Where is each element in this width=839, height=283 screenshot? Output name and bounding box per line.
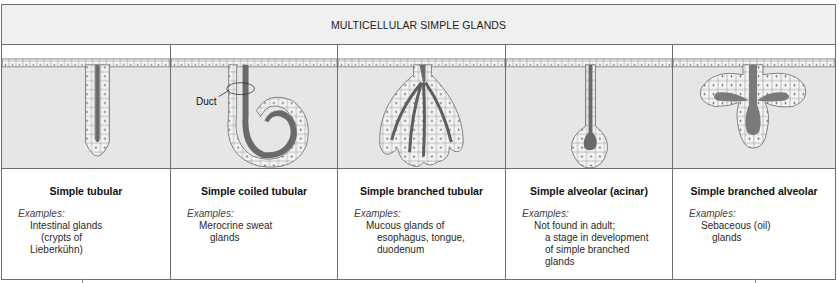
gland-columns: Simple tubular Examples: Intestinal glan… [2, 45, 835, 280]
edge-tick [82, 279, 83, 283]
gland-examples: Examples: Mucous glands of esophagus, to… [354, 208, 465, 256]
duct-label: Duct [196, 96, 217, 107]
example-line: glands [689, 232, 770, 244]
examples-label: Examples: [354, 208, 465, 220]
gland-table: MULTICELLULAR SIMPLE GLANDS [1, 4, 836, 280]
simple-branched-alveolar-text: Simple branched alveolar Examples: Sebac… [673, 169, 835, 280]
gland-column-simple-branched-alveolar: Simple branched alveolar Examples: Sebac… [673, 45, 835, 280]
gland-examples: Examples: Intestinal glands (crypts of L… [18, 208, 102, 256]
example-line: Merocrine sweat [187, 220, 272, 232]
simple-coiled-tubular-text: Simple coiled tubular Examples: Merocrin… [171, 169, 337, 280]
simple-alveolar-text: Simple alveolar (acinar) Examples: Not f… [506, 169, 672, 280]
gland-name: Simple branched alveolar [673, 185, 835, 197]
example-line: Not found in adult; [522, 220, 648, 232]
examples-label: Examples: [689, 208, 770, 220]
simple-tubular-text: Simple tubular Examples: Intestinal glan… [2, 169, 170, 280]
simple-branched-tubular-text: Simple branched tubular Examples: Mucous… [338, 169, 505, 280]
simple-alveolar-illustration [506, 45, 672, 169]
example-line: a stage in development [522, 232, 648, 244]
example-line: (crypts of [18, 232, 102, 244]
gland-column-simple-coiled-tubular: Duct Simple coiled tubular Examples: Mer… [171, 45, 338, 280]
example-line: esophagus, tongue, [354, 232, 465, 244]
edge-tick [755, 279, 756, 283]
gland-column-simple-branched-tubular: Simple branched tubular Examples: Mucous… [338, 45, 506, 280]
simple-coiled-tubular-illustration: Duct [171, 45, 337, 169]
gland-column-simple-alveolar: Simple alveolar (acinar) Examples: Not f… [506, 45, 673, 280]
gland-name: Simple coiled tubular [171, 185, 337, 197]
example-line: Sebaceous (oil) [689, 220, 770, 232]
gland-examples: Examples: Sebaceous (oil) glands [689, 208, 770, 244]
table-header: MULTICELLULAR SIMPLE GLANDS [2, 5, 835, 45]
example-line: glands [522, 256, 648, 268]
example-line: duodenum [354, 244, 465, 256]
simple-tubular-illustration [2, 45, 170, 169]
example-line: Intestinal glands [18, 220, 102, 232]
example-line: Lieberkühn) [18, 244, 102, 256]
example-line: Mucous glands of [354, 220, 465, 232]
example-line: of simple branched [522, 244, 648, 256]
gland-name: Simple branched tubular [338, 185, 505, 197]
simple-branched-alveolar-illustration [673, 45, 835, 169]
gland-name: Simple tubular [2, 185, 170, 197]
gland-examples: Examples: Not found in adult; a stage in… [522, 208, 648, 268]
example-line: glands [187, 232, 272, 244]
examples-label: Examples: [18, 208, 102, 220]
gland-examples: Examples: Merocrine sweat glands [187, 208, 272, 244]
table-title: MULTICELLULAR SIMPLE GLANDS [331, 19, 506, 31]
examples-label: Examples: [187, 208, 272, 220]
examples-label: Examples: [522, 208, 648, 220]
simple-branched-tubular-illustration [338, 45, 505, 169]
gland-name: Simple alveolar (acinar) [506, 185, 672, 197]
gland-column-simple-tubular: Simple tubular Examples: Intestinal glan… [2, 45, 171, 280]
